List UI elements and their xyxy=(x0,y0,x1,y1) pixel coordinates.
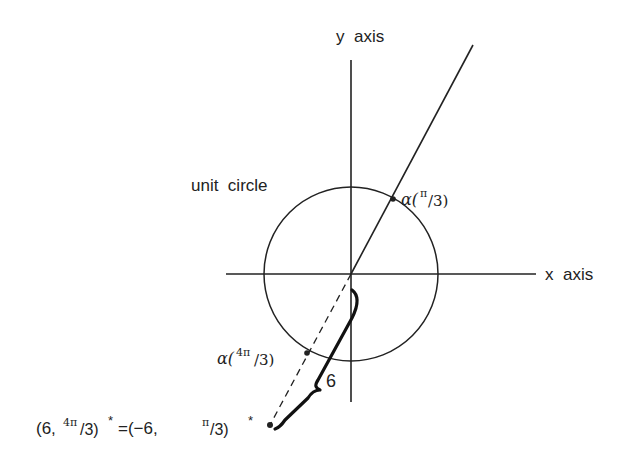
eq-star1: * xyxy=(108,413,113,428)
point-6-4pi-over-3 xyxy=(267,422,273,428)
eq-part3: =(−6, xyxy=(118,419,167,438)
eq-sup1: 4π xyxy=(63,416,77,429)
alpha-4pi-over-3-label: α( 4π /3) xyxy=(217,346,274,369)
alpha-pi-over-3-label: α( π /3) xyxy=(401,187,448,210)
ray-pi-over-3 xyxy=(351,45,473,274)
equivalence-equation: (6, 4π /3) * =(−6, π /3) * xyxy=(36,413,253,438)
eq-star2: * xyxy=(248,413,253,428)
alpha-4pi3-denominator: /3) xyxy=(254,351,274,369)
alpha-4pi3-prefix: α( xyxy=(217,349,235,368)
ray-4pi-over-3-dashed xyxy=(270,274,351,425)
eq-part1: (6, xyxy=(36,419,56,438)
point-alpha-4pi-over-3 xyxy=(304,350,310,356)
alpha-pi3-prefix: α( xyxy=(401,190,419,209)
point-alpha-pi-over-3 xyxy=(390,196,396,202)
x-axis-label: x axis xyxy=(545,265,593,284)
alpha-pi3-denominator: /3) xyxy=(428,192,448,210)
y-axis-label: y axis xyxy=(336,27,384,46)
polar-coordinates-diagram: y axis x axis unit circle α( π /3) α( 4π… xyxy=(0,0,639,470)
length-brace xyxy=(275,290,357,429)
eq-sup2: π xyxy=(202,416,209,429)
alpha-pi3-numerator: π xyxy=(420,187,427,200)
eq-part4: /3) xyxy=(210,421,229,438)
unit-circle-label: unit circle xyxy=(191,176,268,195)
eq-part2: /3) xyxy=(80,421,99,438)
alpha-4pi3-numerator: 4π xyxy=(236,346,250,359)
length-six-label: 6 xyxy=(326,371,336,391)
